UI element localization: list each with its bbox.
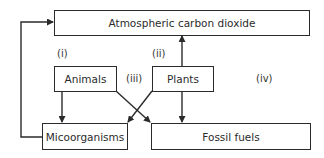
label-iii: (iii) bbox=[126, 73, 142, 84]
label-iv: (iv) bbox=[256, 73, 273, 84]
node-animals: Animals bbox=[54, 66, 117, 92]
node-microorganisms: Micoorganisms bbox=[42, 123, 128, 150]
node-fossil-fuels: Fossil fuels bbox=[151, 123, 311, 150]
node-atmospheric-carbon-dioxide: Atmospheric carbon dioxide bbox=[54, 10, 310, 36]
arrow-animals-to-fossil-fuels bbox=[116, 91, 150, 122]
label-ii: (ii) bbox=[152, 48, 165, 59]
node-plants: Plants bbox=[152, 66, 214, 92]
arrow-microorganisms-to-atmosphere bbox=[21, 22, 53, 137]
label-i: (i) bbox=[57, 48, 68, 59]
arrow-plants-to-microorganisms bbox=[128, 91, 152, 122]
carbon-cycle-diagram: Atmospheric carbon dioxide Animals Plant… bbox=[0, 0, 324, 158]
